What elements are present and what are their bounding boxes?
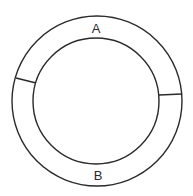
- inner-circle: [33, 38, 159, 164]
- right-separator: [159, 94, 182, 95]
- left-separator: [16, 78, 36, 83]
- region-label-b: B: [94, 168, 103, 183]
- outer-circle: [12, 16, 182, 186]
- region-label-a: A: [92, 21, 101, 36]
- ring-diagram: A B: [0, 0, 193, 196]
